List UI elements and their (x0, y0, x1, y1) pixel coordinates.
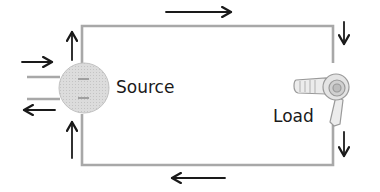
wire-top-left (82, 26, 333, 63)
circuit-diagram (0, 0, 380, 192)
load-label: Load (273, 108, 314, 125)
source-icon (59, 63, 109, 113)
source-label: Source (116, 79, 174, 96)
